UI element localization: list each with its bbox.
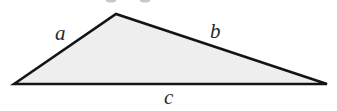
triangle-diagram: a b c: [0, 0, 337, 111]
side-label-a: a: [55, 21, 66, 45]
side-label-b: b: [210, 19, 221, 43]
cropped-text-fragment: [106, 0, 150, 3]
side-label-c: c: [164, 85, 174, 109]
